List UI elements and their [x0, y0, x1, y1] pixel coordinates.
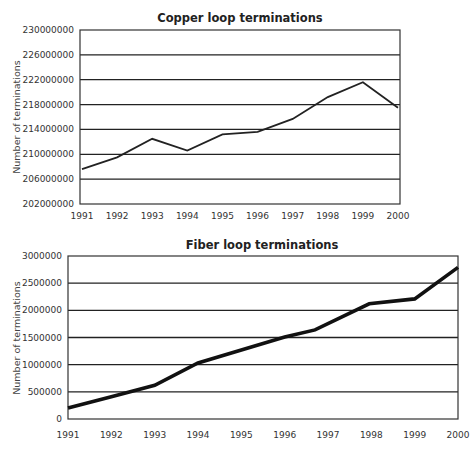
fiber-y-axis-label: Number of terminations [11, 281, 22, 395]
data-point [197, 362, 199, 364]
x-tick-label: 1994 [187, 430, 210, 440]
data-point [414, 298, 416, 300]
x-tick-label: 2000 [387, 211, 410, 221]
fiber-x-ticks: 1991199219931994199519961997199819992000 [57, 430, 470, 440]
data-point [221, 133, 223, 135]
y-tick-label: 1000000 [22, 360, 62, 370]
x-tick-label: 1992 [100, 430, 123, 440]
data-point [110, 396, 112, 398]
y-tick-label: 2000000 [22, 305, 62, 315]
data-point [116, 156, 118, 158]
y-tick-label: 1500000 [22, 333, 62, 343]
y-tick-label: 206000000 [22, 174, 74, 184]
y-tick-label: 202000000 [22, 199, 74, 209]
y-tick-label: 210000000 [22, 149, 74, 159]
y-tick-label: 0 [56, 414, 62, 424]
y-tick-label: 218000000 [22, 100, 74, 110]
y-tick-label: 2500000 [22, 278, 62, 288]
x-tick-label: 1996 [246, 211, 269, 221]
x-tick-label: 1994 [176, 211, 199, 221]
copper-y-ticks: 2020000002060000002100000002140000002180… [22, 25, 74, 209]
copper-data-points [81, 81, 399, 170]
data-point [186, 150, 188, 152]
data-point [284, 336, 286, 338]
copper-series-line [82, 82, 398, 169]
x-tick-label: 1991 [71, 211, 94, 221]
y-tick-label: 230000000 [22, 25, 74, 35]
data-point [397, 107, 399, 109]
x-tick-label: 1999 [403, 430, 426, 440]
x-tick-label: 1999 [351, 211, 374, 221]
data-point [457, 266, 459, 268]
copper-chart-title: Copper loop terminations [157, 11, 323, 25]
copper-gridlines [80, 55, 400, 179]
x-tick-label: 1993 [143, 430, 166, 440]
x-tick-label: 1998 [316, 211, 339, 221]
x-tick-label: 1996 [273, 430, 296, 440]
data-point [327, 96, 329, 98]
data-point [292, 118, 294, 120]
x-tick-label: 1995 [211, 211, 234, 221]
x-tick-label: 1993 [141, 211, 164, 221]
data-point [81, 168, 83, 170]
y-tick-label: 226000000 [22, 50, 74, 60]
charts-figure: Copper loop terminations Number of termi… [0, 0, 474, 449]
data-point [314, 329, 316, 331]
x-tick-label: 1991 [57, 430, 80, 440]
copper-plot-frame [80, 30, 400, 204]
x-tick-label: 1997 [317, 430, 340, 440]
copper-x-ticks: 1991199219931994199519961997199819992000 [71, 211, 410, 221]
x-tick-label: 1997 [281, 211, 304, 221]
data-point [368, 303, 370, 305]
data-point [154, 384, 156, 386]
copper-chart: Copper loop terminations Number of termi… [11, 11, 410, 221]
fiber-chart: Fiber loop terminations Number of termin… [11, 238, 470, 440]
y-tick-label: 500000 [28, 387, 63, 397]
fiber-y-ticks: 0500000100000015000002000000250000030000… [22, 251, 62, 424]
fiber-chart-title: Fiber loop terminations [186, 238, 339, 252]
y-tick-label: 3000000 [22, 251, 62, 261]
copper-y-axis-label: Number of terminations [11, 60, 22, 174]
data-point [151, 138, 153, 140]
x-tick-label: 2000 [447, 430, 470, 440]
data-point [257, 131, 259, 133]
y-tick-label: 214000000 [22, 124, 74, 134]
data-point [67, 407, 69, 409]
x-tick-label: 1995 [230, 430, 253, 440]
x-tick-label: 1998 [360, 430, 383, 440]
data-point [362, 81, 364, 83]
y-tick-label: 222000000 [22, 75, 74, 85]
x-tick-label: 1992 [106, 211, 129, 221]
